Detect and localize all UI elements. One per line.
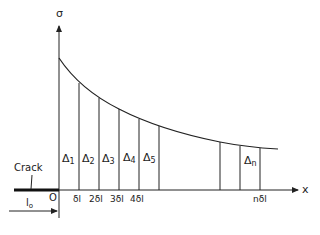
strip-label-1: Δ1 [62, 152, 75, 166]
strip-lines [79, 83, 260, 190]
tick-label-n: nδl [253, 194, 267, 204]
crack-leader [31, 175, 32, 189]
crack-label: Crack [14, 162, 43, 173]
strip-label-3: Δ3 [102, 152, 115, 166]
strip-label-4: Δ4 [123, 151, 136, 165]
crack-length-label: lo [26, 197, 33, 210]
strip-label-n: Δn [244, 154, 257, 168]
diagram-svg: σ x O Crack lo Δ1 Δ2 Δ3 Δ4 Δ5 [0, 0, 320, 235]
tick-label-2: 2δl [89, 194, 103, 204]
tick-label-3: 3δl [110, 194, 124, 204]
strip-label-2: Δ2 [82, 152, 95, 166]
x-axis-label: x [302, 183, 309, 196]
strip-label-5: Δ5 [143, 151, 156, 165]
tick-label-4: 4δl [130, 194, 144, 204]
y-axis-label: σ [56, 7, 63, 20]
origin-label: O [49, 192, 57, 203]
tick-label-1: δl [73, 194, 81, 204]
stress-distribution-diagram: σ x O Crack lo Δ1 Δ2 Δ3 Δ4 Δ5 [0, 0, 320, 235]
stress-curve [59, 58, 278, 149]
